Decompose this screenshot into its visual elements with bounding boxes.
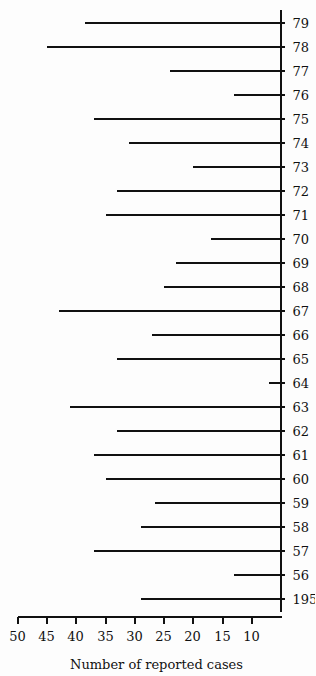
y-tick-mark: [134, 617, 136, 624]
x-tick-label: 76: [293, 89, 316, 102]
x-tick-label: 78: [293, 41, 316, 54]
bar-79: [85, 22, 285, 24]
bar-76: [234, 94, 285, 96]
bar-63: [70, 406, 285, 408]
chart-canvas: 1955565758596061626364656667686970717273…: [0, 0, 315, 676]
y-tick-label: 40: [66, 630, 86, 643]
x-tick-label: 70: [293, 233, 316, 246]
y-tick-mark: [192, 617, 194, 624]
x-tick-label: 77: [293, 65, 316, 78]
y-tick-mark: [75, 617, 77, 624]
y-tick-label: 45: [37, 630, 57, 643]
bar-61: [94, 454, 285, 456]
x-tick-label: 68: [293, 281, 316, 294]
bar-1955: [141, 598, 285, 600]
y-tick-mark: [17, 617, 19, 624]
y-tick-label: 35: [95, 630, 115, 643]
x-tick-label: 69: [293, 257, 316, 270]
x-tick-label: 1955: [293, 593, 316, 606]
x-tick-label: 74: [293, 137, 316, 150]
y-tick-mark: [251, 617, 253, 624]
y-tick-label: 30: [124, 630, 144, 643]
y-tick-label: 20: [183, 630, 203, 643]
y-axis-title: Number of reported cases: [70, 658, 243, 671]
bar-62: [117, 430, 285, 432]
bar-66: [152, 334, 285, 336]
x-tick-label: 75: [293, 113, 316, 126]
x-tick-label: 62: [293, 425, 316, 438]
x-tick-label: 57: [293, 545, 316, 558]
x-tick-label: 72: [293, 185, 316, 198]
bar-57: [94, 550, 285, 552]
x-tick-label: 65: [293, 353, 316, 366]
bar-56: [234, 574, 285, 576]
y-tick-mark: [105, 617, 107, 624]
bar-65: [117, 358, 285, 360]
bar-60: [106, 478, 286, 480]
bar-69: [176, 262, 285, 264]
bar-77: [170, 70, 285, 72]
bar-67: [59, 310, 285, 312]
y-tick-mark: [46, 617, 48, 624]
y-tick-label: 15: [212, 630, 232, 643]
x-tick-label: 56: [293, 569, 316, 582]
y-tick-label: 10: [241, 630, 261, 643]
y-tick-mark: [222, 617, 224, 624]
x-tick-label: 67: [293, 305, 316, 318]
bar-68: [164, 286, 285, 288]
bar-75: [94, 118, 285, 120]
bar-73: [193, 166, 285, 168]
bar-70: [211, 238, 285, 240]
bar-72: [117, 190, 285, 192]
y-tick-label: 50: [7, 630, 27, 643]
x-tick-label: 63: [293, 401, 316, 414]
y-axis-line: [18, 616, 282, 618]
bar-59: [155, 502, 285, 504]
y-tick-label: 25: [154, 630, 174, 643]
bar-71: [106, 214, 286, 216]
x-tick-label: 73: [293, 161, 316, 174]
bar-78: [47, 46, 285, 48]
x-tick-label: 59: [293, 497, 316, 510]
bar-74: [129, 142, 285, 144]
x-tick-label: 79: [293, 17, 316, 30]
x-tick-label: 60: [293, 473, 316, 486]
x-tick-label: 71: [293, 209, 316, 222]
x-tick-label: 64: [293, 377, 316, 390]
y-tick-mark: [163, 617, 165, 624]
x-tick-label: 58: [293, 521, 316, 534]
x-tick-label: 61: [293, 449, 316, 462]
x-tick-label: 66: [293, 329, 316, 342]
bar-64: [269, 382, 285, 384]
bar-58: [141, 526, 285, 528]
